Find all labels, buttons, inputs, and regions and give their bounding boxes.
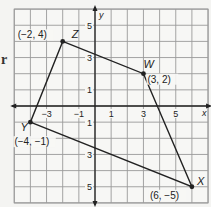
x-axis-arrow-left-icon [10, 104, 16, 109]
x-tick-label: 3 [141, 109, 146, 119]
x-axis-label: x [201, 108, 207, 118]
vertex-name-Y: Y [20, 121, 28, 133]
y-tick-label: 1 [87, 85, 92, 95]
coordinate-plane-figure: r xy−3−1135531135Z(−2, 4)W(3, 2)X(6, −5)… [0, 0, 211, 207]
x-tick-label: 1 [109, 109, 114, 119]
y-tick-label: 1 [87, 118, 92, 128]
vertex-name-X: X [196, 175, 205, 187]
y-axis-arrow-up-icon [93, 5, 98, 11]
vertex-point-Z [60, 39, 65, 44]
x-tick-label: 5 [173, 109, 178, 119]
x-tick-label: −1 [74, 109, 84, 119]
vertex-coordinates-Z: (−2, 4) [18, 29, 47, 40]
vertex-name-W: W [143, 58, 155, 70]
vertex-coordinates-X: (6, −5) [150, 190, 179, 201]
y-tick-label: 5 [87, 21, 92, 31]
vertex-point-W [141, 71, 146, 76]
vertex-name-Z: Z [71, 28, 80, 40]
vertex-coordinates-Y: (−4, −1) [14, 136, 49, 147]
y-axis-label: y [98, 10, 104, 20]
x-tick-label: −3 [41, 109, 51, 119]
y-tick-label: 3 [87, 150, 92, 160]
y-axis-arrow-down-icon [93, 201, 98, 207]
vertex-point-Y [28, 120, 33, 125]
vertex-point-X [190, 184, 195, 189]
coordinate-grid: xy−3−1135531135Z(−2, 4)W(3, 2)X(6, −5)Y(… [0, 0, 211, 207]
cropped-text-fragment: r [1, 52, 7, 68]
vertex-coordinates-W: (3, 2) [147, 74, 170, 85]
y-tick-label: 3 [87, 53, 92, 63]
y-tick-label: 5 [87, 182, 92, 192]
